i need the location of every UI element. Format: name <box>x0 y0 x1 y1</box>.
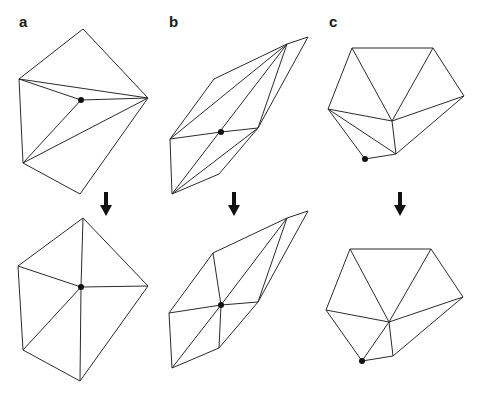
marked-vertex <box>218 302 224 308</box>
mesh-before <box>328 48 464 162</box>
mesh-edge <box>362 322 389 361</box>
marked-vertex <box>362 156 368 162</box>
mesh-edge <box>326 310 362 361</box>
mesh-edge <box>81 286 148 287</box>
marked-vertex <box>78 284 84 290</box>
mesh-edge <box>326 310 389 322</box>
mesh-edge <box>393 297 463 356</box>
mesh-edge <box>350 249 389 322</box>
mesh-edge <box>23 100 81 163</box>
mesh-edge <box>170 44 287 139</box>
down-arrow-icon <box>228 192 240 216</box>
mesh-edge <box>365 154 396 159</box>
mesh-edge <box>23 287 81 350</box>
mesh-edge <box>392 96 464 121</box>
down-arrow-icon <box>394 192 406 216</box>
mesh-edge <box>258 44 287 128</box>
mesh-edge <box>172 348 219 368</box>
mesh-edge <box>389 322 393 356</box>
mesh-edge <box>362 356 393 361</box>
mesh-edge <box>19 79 81 100</box>
panel-b: b <box>169 13 308 368</box>
mesh-edge <box>433 48 464 96</box>
mesh-after <box>18 218 148 381</box>
mesh-edge <box>258 218 287 302</box>
mesh-edge <box>19 79 148 98</box>
mesh-edge <box>431 249 463 297</box>
mesh-edge <box>81 98 148 100</box>
mesh-edge <box>80 286 148 381</box>
mesh-edge <box>326 249 350 310</box>
mesh-after <box>326 249 463 364</box>
mesh-edge <box>258 37 308 128</box>
down-arrow-icon <box>100 192 112 216</box>
mesh-edge <box>23 163 80 194</box>
mesh-edge <box>169 313 172 368</box>
mesh-edge <box>19 79 23 163</box>
panel-label: c <box>329 13 337 30</box>
mesh-edge <box>83 218 148 286</box>
mesh-edge <box>258 211 308 302</box>
mesh-before <box>19 29 148 194</box>
mesh-edge <box>389 249 431 322</box>
marked-vertex <box>78 97 84 103</box>
marked-vertex <box>218 129 224 135</box>
mesh-edge <box>389 297 463 322</box>
panel-label: a <box>19 13 28 30</box>
panel-label: b <box>169 13 178 30</box>
mesh-edge <box>23 98 148 163</box>
mesh-after <box>169 211 308 368</box>
marked-vertex <box>359 358 365 364</box>
mesh-edge <box>221 302 258 305</box>
mesh-edge <box>219 305 221 348</box>
mesh-edge <box>169 253 213 313</box>
mesh-edge <box>221 128 258 132</box>
mesh-edge <box>169 305 221 313</box>
mesh-edge <box>172 44 287 194</box>
mesh-edge <box>18 266 81 287</box>
mesh-edge <box>213 218 287 253</box>
mesh-edge <box>80 98 148 194</box>
panel-a: a <box>18 13 148 381</box>
triangulation-diagram: abc <box>0 0 481 395</box>
mesh-edge <box>213 253 221 305</box>
mesh-edge <box>392 48 433 121</box>
mesh-edge <box>83 29 148 98</box>
mesh-edge <box>172 305 221 368</box>
mesh-before <box>170 37 308 194</box>
mesh-edge <box>219 128 258 174</box>
mesh-edge <box>170 139 172 194</box>
mesh-edge <box>392 121 396 154</box>
mesh-edge <box>328 48 352 109</box>
mesh-edge <box>80 287 81 381</box>
panel-c: c <box>326 13 464 364</box>
mesh-edge <box>19 29 83 79</box>
mesh-edge <box>221 218 287 305</box>
mesh-edge <box>219 302 258 348</box>
mesh-edge <box>18 266 23 350</box>
mesh-edge <box>18 218 83 266</box>
mesh-edge <box>81 218 83 287</box>
mesh-edge <box>396 96 464 154</box>
mesh-edge <box>352 48 392 121</box>
mesh-edge <box>328 109 365 159</box>
mesh-edge <box>23 350 80 381</box>
